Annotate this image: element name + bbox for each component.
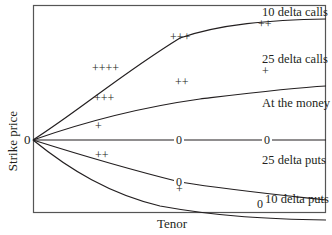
label-25-delta-puts: 25 delta puts: [262, 153, 326, 167]
marker-atm-b: 0: [264, 133, 270, 147]
marker-c10-c: ++: [258, 17, 272, 31]
x-axis-label: Tenor: [157, 216, 188, 231]
marker-c10-a: ++++: [92, 61, 119, 75]
label-10-delta-puts: 10 delta puts: [265, 192, 329, 206]
y-axis-label: Strike price: [5, 111, 20, 172]
marker-c10-b: +++: [170, 30, 191, 44]
marker-c25-a: +++: [94, 91, 115, 105]
marker-c25-c: +: [262, 64, 269, 78]
marker-p25-a: +: [95, 119, 102, 133]
marker-p10-b: +: [176, 182, 183, 196]
marker-c25-b: ++: [175, 75, 189, 89]
label-25-delta-calls: 25 delta calls: [262, 52, 328, 66]
marker-atm-a: 0: [176, 133, 182, 147]
label-10-delta-calls: 10 delta calls: [262, 5, 328, 19]
marker-p10-c: 0: [257, 197, 263, 211]
origin-label: 0: [24, 132, 31, 147]
curve-25-delta-calls: [33, 86, 326, 140]
label-at-the-money: At the money: [262, 96, 331, 110]
marker-p10-a: ++: [95, 148, 109, 162]
strike-tenor-diagram: ++++ +++ ++ +++ ++ + 0 0 + 0 ++ + 0 10 d…: [0, 0, 332, 235]
